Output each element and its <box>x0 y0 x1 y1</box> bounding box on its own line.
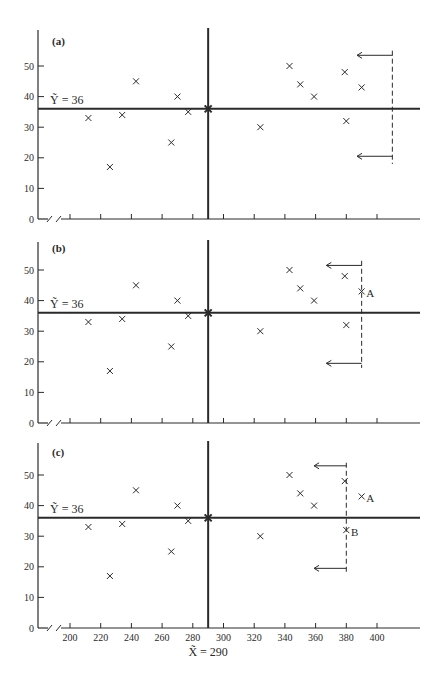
point-annotation-A: A <box>366 492 374 504</box>
x-tick-label: 200 <box>63 632 78 643</box>
data-point-marker <box>85 524 91 530</box>
y-tick-label: 10 <box>24 387 34 398</box>
y-tick-label: 40 <box>24 500 34 511</box>
x-tick-label: 240 <box>124 632 139 643</box>
x-tick-label: 220 <box>93 632 108 643</box>
data-point-marker <box>119 521 125 527</box>
point-annotation-B: B <box>351 526 358 538</box>
data-point-marker <box>342 69 348 75</box>
y-tick-label: 0 <box>29 418 34 429</box>
x-tick-label: 320 <box>247 632 262 643</box>
left-arrow-icon <box>326 360 361 366</box>
data-point-marker <box>297 490 303 496</box>
y-tick-label: 10 <box>24 592 34 603</box>
y-tick-label: 20 <box>24 561 34 572</box>
data-point-marker <box>297 285 303 291</box>
data-point-marker <box>85 319 91 325</box>
data-point-marker <box>343 118 349 124</box>
y-tick-label: 40 <box>24 91 34 102</box>
median-x-label: X̃ = 290 <box>188 645 227 659</box>
y-tick-label: 0 <box>29 214 34 225</box>
data-point-marker <box>168 344 174 350</box>
y-tick-label: 10 <box>24 183 34 194</box>
data-point-marker <box>119 112 125 118</box>
chart-panel-c: 0102030405020022024026028030032034036038… <box>24 441 420 659</box>
point-annotation-A: A <box>366 287 374 299</box>
data-point-marker <box>107 368 113 374</box>
panel-label: (a) <box>52 35 65 48</box>
axis-break-mark <box>56 216 61 222</box>
y-tick-label: 50 <box>24 61 34 72</box>
median-y-label: Ỹ = 36 <box>50 502 83 516</box>
data-point-marker <box>287 472 293 478</box>
x-tick-label: 280 <box>185 632 200 643</box>
y-tick-label: 30 <box>24 531 34 542</box>
data-point-marker <box>133 282 139 288</box>
median-y-label: Ỹ = 36 <box>50 297 83 311</box>
left-arrow-icon <box>326 262 361 268</box>
data-point-marker <box>257 533 263 539</box>
chart-panel-a: 01020304050(a)Ỹ = 36 <box>24 28 420 225</box>
left-arrow-icon <box>357 52 392 58</box>
x-tick-label: 360 <box>308 632 323 643</box>
x-tick-label: 340 <box>277 632 292 643</box>
data-point-marker <box>343 322 349 328</box>
data-point-marker <box>85 115 91 121</box>
median-y-label: Ỹ = 36 <box>50 93 83 107</box>
axis-break-mark <box>56 420 61 426</box>
data-point-marker <box>174 503 180 509</box>
left-arrow-icon <box>357 153 392 159</box>
y-tick-label: 20 <box>24 152 34 163</box>
panel-label: (c) <box>52 446 65 459</box>
data-point-marker <box>287 63 293 69</box>
x-tick-label: 260 <box>155 632 170 643</box>
data-point-marker <box>133 78 139 84</box>
y-tick-label: 20 <box>24 356 34 367</box>
data-point-marker <box>168 140 174 146</box>
y-tick-label: 50 <box>24 265 34 276</box>
data-point-marker <box>342 478 348 484</box>
data-point-marker <box>133 487 139 493</box>
data-point-marker <box>107 164 113 170</box>
median-scatter-figure: 01020304050(a)Ỹ = 3601020304050(b)Ỹ = 36… <box>0 0 441 684</box>
panel-label: (b) <box>52 242 66 255</box>
data-point-marker <box>107 573 113 579</box>
y-tick-label: 40 <box>24 295 34 306</box>
data-point-marker <box>311 503 317 509</box>
y-tick-label: 50 <box>24 470 34 481</box>
data-point-marker <box>287 267 293 273</box>
data-point-marker <box>119 316 125 322</box>
data-point-marker <box>359 493 365 499</box>
x-tick-label: 400 <box>370 632 385 643</box>
y-tick-label: 30 <box>24 326 34 337</box>
y-tick-label: 0 <box>29 623 34 634</box>
data-point-marker <box>311 298 317 304</box>
data-point-marker <box>311 94 317 100</box>
chart-panel-b: 01020304050(b)Ỹ = 36A <box>24 240 420 429</box>
left-arrow-icon <box>314 463 346 469</box>
left-arrow-icon <box>314 565 346 571</box>
x-tick-label: 300 <box>216 632 231 643</box>
x-tick-label: 380 <box>339 632 354 643</box>
data-point-marker <box>257 328 263 334</box>
data-point-marker <box>359 84 365 90</box>
axis-break-mark <box>56 625 61 631</box>
data-point-marker <box>168 549 174 555</box>
data-point-marker <box>297 81 303 87</box>
data-point-marker <box>257 124 263 130</box>
figure-canvas: 01020304050(a)Ỹ = 3601020304050(b)Ỹ = 36… <box>0 0 441 684</box>
data-point-marker <box>174 94 180 100</box>
data-point-marker <box>174 298 180 304</box>
y-tick-label: 30 <box>24 122 34 133</box>
data-point-marker <box>342 273 348 279</box>
